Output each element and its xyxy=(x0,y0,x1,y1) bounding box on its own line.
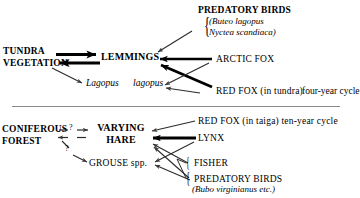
arrow-predatory-birds-taiga-to-grouse xyxy=(155,165,190,180)
label-predatory-birds-tundra: PREDATORY BIRDS xyxy=(198,5,291,15)
label-red-fox-tundra: RED FOX (in tundra) xyxy=(216,86,303,96)
label-lagopus-species: lagopus xyxy=(133,78,163,88)
brace-icon-taiga-birds: { xyxy=(186,170,190,187)
label-grouse-spp: GROUSE spp. xyxy=(89,158,147,168)
arrow-red-fox-taiga-to-hare xyxy=(152,121,195,131)
label-lagopus-genus: Lagopus xyxy=(86,78,119,88)
label-question-mark-hare: ? xyxy=(69,124,73,133)
label-varying-hare-line1: VARYING xyxy=(92,123,150,134)
label-question-mark-grouse: ? xyxy=(65,145,69,154)
label-lynx: LYNX xyxy=(198,133,224,143)
label-arctic-fox: ARCTIC FOX xyxy=(216,54,274,64)
label-fisher: FISHER xyxy=(194,158,228,168)
label-coniferous-forest-line2: FOREST xyxy=(2,136,41,146)
diagram-canvas: TUNDRA VEGETATION LEMMINGS Lagopus lagop… xyxy=(0,0,360,198)
arrow-predatory-birds-to-lemmings xyxy=(158,31,192,52)
label-four-year-cycle: four-year cycle xyxy=(302,86,360,96)
arrow-layer xyxy=(0,0,360,198)
label-buteo-lagopus: (Buteo lagopus xyxy=(209,17,264,27)
label-varying-hare-line2: HARE xyxy=(92,135,150,146)
arrow-red-fox-to-lagopus xyxy=(166,88,200,93)
arrow-vegetation-to-lagopus xyxy=(52,68,82,83)
label-bubo-virginianus: (Bubo virginianus etc.) xyxy=(192,185,275,195)
label-red-fox-taiga: RED FOX (in taiga) ten-year cycle xyxy=(198,116,338,126)
label-nyctea-scandiaca: Nyctea scandiaca) xyxy=(209,28,276,38)
label-tundra-vegetation-line2: VEGETATION xyxy=(3,58,68,68)
label-tundra-vegetation-line1: TUNDRA xyxy=(3,46,45,56)
label-lemmings: LEMMINGS xyxy=(101,52,159,63)
brace-icon-fisher: { xyxy=(186,155,190,170)
label-predatory-birds-taiga: PREDATORY BIRDS xyxy=(194,174,282,184)
label-coniferous-forest-line1: CONIFEROUS xyxy=(2,124,67,134)
